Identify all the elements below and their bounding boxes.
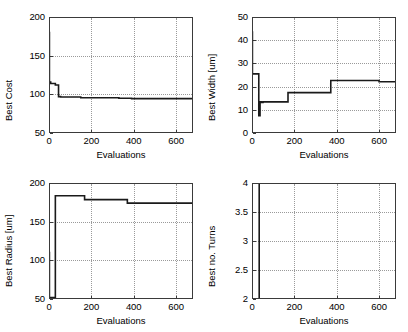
data-line bbox=[252, 183, 396, 299]
subplot-best-no-turns: 020040060022.533.54EvaluationsBest no. T… bbox=[0, 0, 408, 332]
series-layer-best-no-turns bbox=[0, 0, 408, 332]
figure-canvas: 020040060050100150200EvaluationsBest Cos… bbox=[0, 0, 408, 332]
